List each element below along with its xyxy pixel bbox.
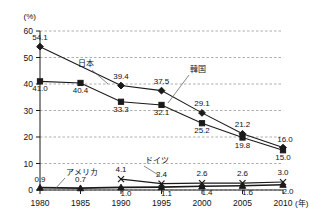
data-point-label: 16.0 (277, 135, 293, 144)
series-name-label-アメリカ: アメリカ (66, 168, 98, 177)
data-point-label: 2.6 (237, 169, 249, 178)
data-point-label: 3.0 (277, 168, 289, 177)
y-axis-tick-label: 30 (24, 106, 34, 116)
x-axis-tick-label: 2005 (233, 198, 252, 208)
chart-canvas: 0102030405060(%)198019851990199520002005… (0, 0, 309, 222)
line-chart: 0102030405060(%)198019851990199520002005… (0, 0, 309, 222)
data-point-marker-韓国 (118, 82, 125, 89)
x-axis-tick-label: 1995 (152, 198, 171, 208)
data-point-label: 40.4 (73, 86, 89, 95)
data-point-label: 21.2 (235, 120, 251, 129)
data-point-label: 2.0 (282, 187, 294, 196)
data-point-label: 37.5 (154, 77, 170, 86)
data-point-marker-日本 (37, 79, 42, 84)
x-axis-tick-label: 1985 (71, 198, 90, 208)
series-name-label-日本: 日本 (78, 58, 94, 68)
x-axis-tick-label: 2000 (193, 198, 212, 208)
data-point-label: 19.8 (235, 141, 251, 150)
y-axis-tick-label: 0 (28, 185, 33, 195)
series-name-label-韓国: 韓国 (190, 64, 206, 74)
data-point-marker-日本 (159, 102, 164, 107)
y-axis-tick-label: 10 (24, 159, 34, 169)
data-point-label: 4.1 (115, 165, 127, 174)
x-axis-tick-label: 1990 (112, 198, 131, 208)
data-point-label: 15.0 (275, 153, 291, 162)
data-point-label: 2.4 (156, 170, 168, 179)
data-point-label: 1.6 (242, 188, 254, 197)
data-point-label: 1.4 (201, 188, 213, 197)
data-point-marker-韓国 (37, 43, 44, 50)
data-point-marker-日本 (240, 135, 245, 140)
data-point-marker-日本 (118, 99, 123, 104)
data-point-marker-韓国 (158, 87, 165, 94)
series-name-label-ドイツ: ドイツ (145, 156, 169, 165)
x-axis-tick-label: 2010 (274, 198, 293, 208)
data-point-label: 29.1 (194, 99, 210, 108)
y-axis-tick-label: 50 (24, 53, 34, 63)
data-point-label: 39.4 (113, 72, 129, 81)
x-axis-unit-label: (年) (295, 198, 309, 208)
data-point-label: 33.3 (113, 105, 129, 114)
data-point-marker-日本 (199, 121, 204, 126)
x-axis-tick-label: 1980 (31, 198, 50, 208)
series-line-韓国 (40, 47, 283, 148)
data-point-marker-日本 (280, 148, 285, 153)
leader-line-韓国 (168, 75, 189, 103)
data-point-label: 25.2 (194, 126, 210, 135)
data-point-label: 41.0 (32, 84, 48, 93)
data-point-label: 0.9 (34, 175, 46, 184)
y-axis-unit-label: (%) (24, 12, 37, 21)
data-point-marker-日本 (78, 80, 83, 85)
data-point-label: 2.6 (196, 169, 208, 178)
data-point-label: 54.1 (32, 33, 48, 42)
leader-line-日本 (92, 70, 108, 84)
data-point-label: 32.1 (154, 108, 170, 117)
data-point-label: 1.0 (120, 189, 132, 198)
y-axis-tick-label: 20 (24, 132, 34, 142)
data-point-label: 1.1 (161, 189, 173, 198)
